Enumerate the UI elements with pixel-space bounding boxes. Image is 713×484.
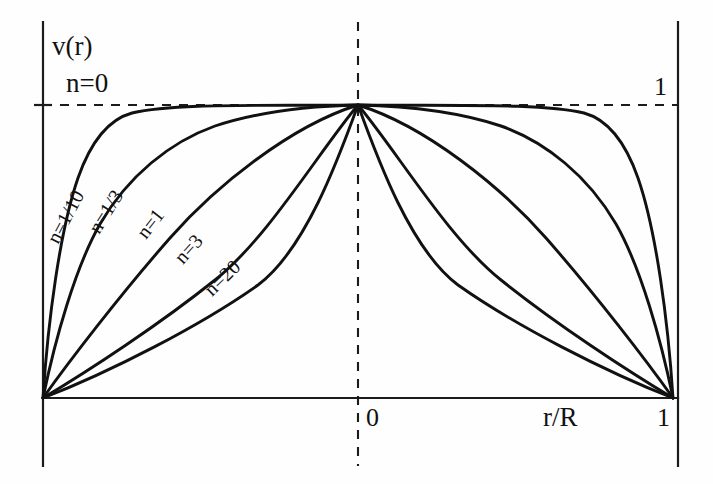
y-axis-label: v(r)	[52, 31, 92, 61]
velocity-profile-figure: v(r) n=0 1 0 1 r/R n=1/10 n=1/3 n=1 n=3 …	[0, 0, 713, 484]
plot-canvas: v(r) n=0 1 0 1 r/R n=1/10 n=1/3 n=1 n=3 …	[0, 0, 713, 484]
curve-label-n-1: n=1	[132, 204, 169, 242]
curve-label-n-1-3: n=1/3	[84, 186, 127, 237]
curve-label-n-3: n=3	[170, 230, 207, 268]
x-tick-label-0: 0	[366, 403, 379, 432]
curve-label-n-20: n=20	[199, 255, 244, 300]
x-tick-label-1: 1	[657, 403, 670, 432]
plug-flow-label-n0: n=0	[66, 68, 108, 98]
curve-label-n-1-10: n=1/10	[42, 186, 88, 247]
y-tick-label-1: 1	[654, 72, 667, 101]
x-axis-label: r/R	[543, 402, 578, 432]
